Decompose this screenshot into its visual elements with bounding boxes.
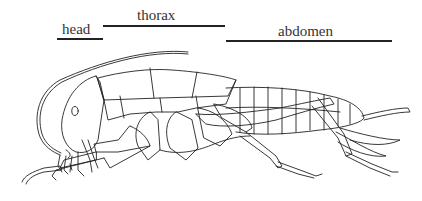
antenna xyxy=(37,51,188,155)
insect-drawing xyxy=(0,0,422,201)
abdomen xyxy=(226,87,364,134)
hind-leg xyxy=(196,98,398,176)
mouthparts xyxy=(58,140,98,176)
head xyxy=(62,76,104,158)
cerci xyxy=(336,108,410,156)
fore-leg xyxy=(22,126,150,184)
